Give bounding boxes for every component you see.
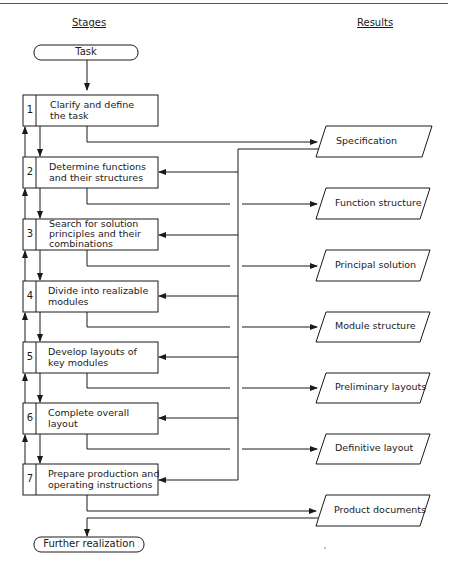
result-definitive-layout: Definitive layout (335, 442, 413, 453)
stage-7-number: 7 (23, 473, 37, 484)
result-product-documents: Product documents (334, 504, 426, 515)
stage-1-label: Clarify and definethe task (50, 99, 134, 121)
stage-6-label: Complete overalllayout (48, 407, 129, 429)
stage-6-number: 6 (23, 412, 37, 423)
result-module-structure: Module structure (335, 320, 416, 331)
stage-3-label: Search for solutionprinciples and theirc… (49, 219, 141, 249)
stage-5-number: 5 (23, 351, 37, 362)
stage-2-number: 2 (23, 166, 37, 177)
stage-1-number: 1 (23, 104, 37, 115)
result-principal-solution: Principal solution (335, 259, 416, 270)
result-specification: Specification (336, 135, 397, 146)
result-function-structure: Function structure (335, 197, 422, 208)
end-label: Further realization (34, 538, 144, 549)
stage-3-number: 3 (23, 228, 37, 239)
stage-5-label: Develop layouts ofkey modules (48, 346, 137, 368)
result-preliminary-layouts: Preliminary layouts (335, 381, 426, 392)
stage-2-label: Determine functionsand their structures (49, 161, 146, 183)
stage-4-number: 4 (23, 290, 37, 301)
start-label: Task (34, 46, 138, 57)
stage-4-label: Divide into realizablemodules (48, 285, 148, 307)
stage-7-label: Prepare production andoperating instruct… (48, 468, 159, 490)
